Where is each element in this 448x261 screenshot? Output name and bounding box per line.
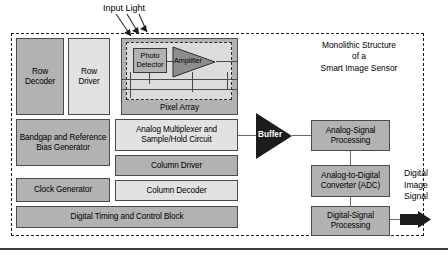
output-label-line-1: Digital	[404, 168, 448, 180]
pixel-col-wire-1	[130, 72, 131, 98]
bottom-divider	[0, 248, 448, 250]
buffer-label: Buffer	[258, 130, 288, 139]
pixel-row-wire-1	[122, 79, 237, 80]
pixel-col-wire-2	[149, 72, 150, 84]
asp-to-adc-connector	[350, 151, 351, 165]
monolithic-structure-caption: Monolithic Structure of a Smart Image Se…	[300, 40, 418, 74]
output-label-line-3: Signal	[404, 191, 448, 203]
block-digital-signal-processing[interactable]: Digital-Signal Processing	[311, 206, 390, 236]
block-row-decoder[interactable]: Row Decoder	[16, 38, 64, 115]
mux-to-buffer-connector	[238, 135, 256, 136]
caption-line-1: Monolithic Structure	[300, 40, 418, 51]
block-analog-to-digital-converter[interactable]: Analog-to-Digital Converter (ADC)	[311, 165, 390, 197]
diagram-canvas: Input Light Monolithic Structure of a Sm…	[0, 0, 448, 261]
block-column-decoder[interactable]: Column Decoder	[115, 180, 238, 201]
output-label-line-2: Image	[404, 180, 448, 192]
block-column-driver[interactable]: Column Driver	[115, 155, 238, 176]
digital-image-signal-label: Digital Image Signal	[404, 168, 448, 203]
digital-output-arrow-icon	[400, 211, 431, 228]
block-row-driver[interactable]: Row Driver	[68, 38, 110, 115]
pixel-array-label: Pixel Array	[122, 103, 237, 112]
amplifier-label: Amplifier	[174, 56, 212, 65]
amplifier-output-wire	[216, 61, 238, 62]
block-clock-generator[interactable]: Clock Generator	[16, 178, 110, 202]
buffer-to-asp-connector	[292, 135, 311, 136]
block-photo-detector[interactable]: Photo Detector	[133, 48, 167, 73]
block-bandgap-reference-bias-generator[interactable]: Bandgap and Reference Bias Generator	[16, 119, 110, 166]
photo-detector-label: Photo Detector	[134, 52, 166, 69]
block-analog-multiplexer-sample-hold[interactable]: Analog Multiplexer and Sample/Hold Circu…	[115, 119, 238, 151]
pixel-col-wire-4	[227, 72, 228, 90]
pixel-row-wire-2	[122, 89, 237, 90]
caption-line-2: of a	[300, 51, 418, 62]
caption-line-3: Smart Image Sensor	[300, 63, 418, 74]
block-digital-timing-control[interactable]: Digital Timing and Control Block	[16, 206, 238, 228]
block-analog-signal-processing[interactable]: Analog-Signal Processing	[311, 120, 390, 151]
